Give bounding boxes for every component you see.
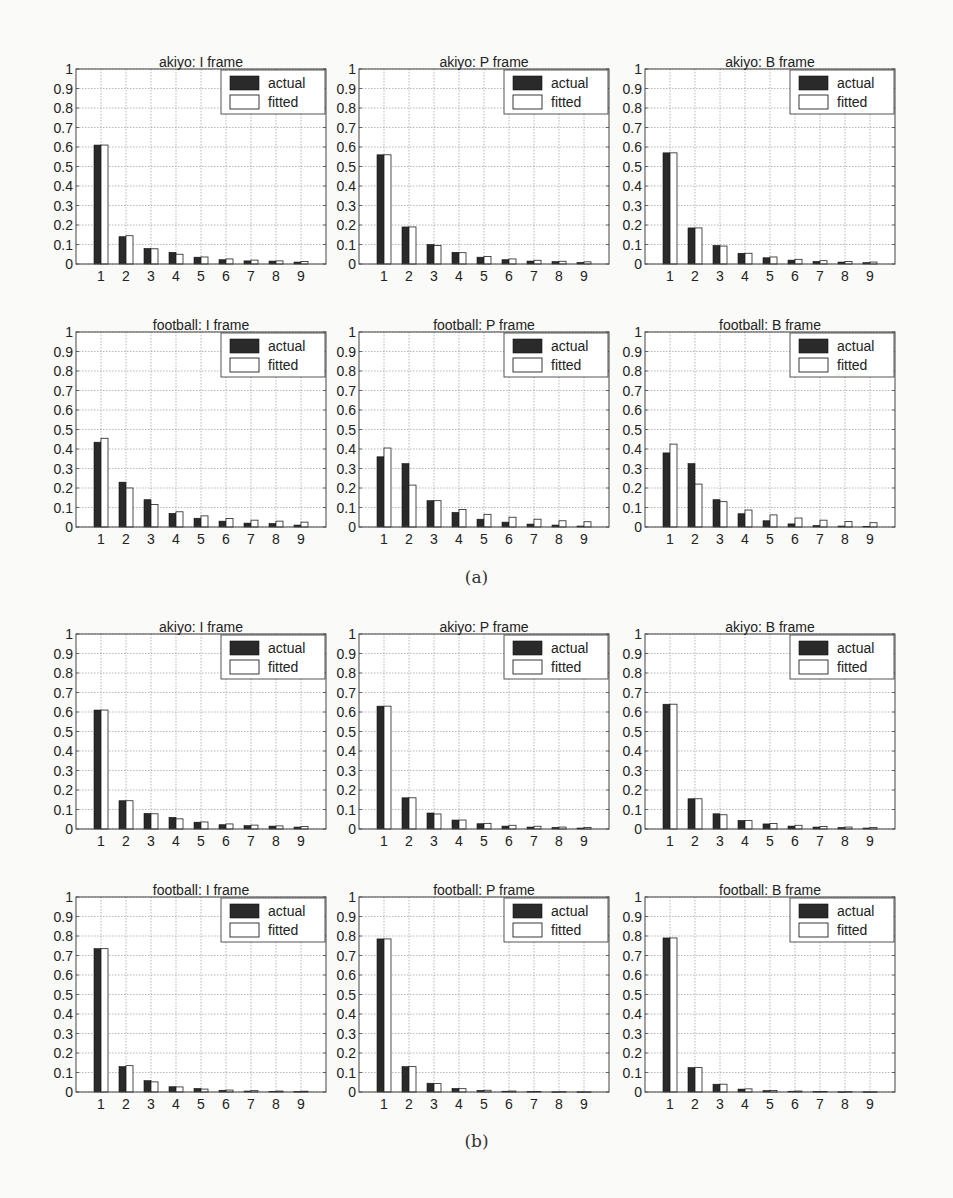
- bar-fitted: [101, 438, 108, 527]
- svg-text:8: 8: [555, 833, 563, 849]
- svg-text:0.6: 0.6: [623, 704, 643, 720]
- svg-text:5: 5: [766, 1096, 774, 1112]
- bar-fitted: [101, 710, 108, 829]
- svg-text:4: 4: [455, 268, 463, 284]
- bar-fitted: [201, 257, 208, 264]
- svg-text:0: 0: [65, 519, 73, 535]
- svg-text:0.1: 0.1: [623, 802, 643, 818]
- legend-swatch-actual: [230, 76, 259, 90]
- svg-text:9: 9: [866, 1096, 874, 1112]
- bar-fitted: [301, 522, 308, 527]
- svg-text:0.9: 0.9: [54, 646, 74, 662]
- svg-text:0.5: 0.5: [623, 159, 643, 175]
- svg-text:5: 5: [197, 1096, 205, 1112]
- svg-text:4: 4: [172, 833, 180, 849]
- svg-text:2: 2: [122, 268, 130, 284]
- svg-text:1: 1: [65, 889, 73, 905]
- legend-label-fitted: fitted: [268, 357, 298, 373]
- legend-label-fitted: fitted: [837, 357, 867, 373]
- legend-swatch-fitted: [513, 923, 542, 937]
- svg-text:7: 7: [530, 268, 538, 284]
- bar-chart: 00.10.20.30.40.50.60.70.80.91123456789fo…: [40, 318, 340, 568]
- chart-akiyo-b-frame-b: 00.10.20.30.40.50.60.70.80.91123456789ak…: [609, 620, 909, 870]
- bar-actual: [94, 949, 101, 1092]
- chart-akiyo-b-frame-a: 00.10.20.30.40.50.60.70.80.91123456789ak…: [609, 55, 909, 305]
- bar-fitted: [795, 825, 802, 829]
- x-axis-labels: 123456789: [380, 531, 588, 547]
- svg-text:0.9: 0.9: [337, 81, 357, 97]
- svg-text:0.6: 0.6: [337, 402, 357, 418]
- svg-text:0.9: 0.9: [623, 909, 643, 925]
- chart-title: football: B frame: [719, 883, 821, 898]
- svg-text:0.5: 0.5: [337, 724, 357, 740]
- svg-text:0.4: 0.4: [623, 1006, 643, 1022]
- legend-swatch-fitted: [799, 923, 828, 937]
- svg-text:8: 8: [272, 268, 280, 284]
- svg-text:0.1: 0.1: [337, 237, 357, 253]
- legend-swatch-actual: [513, 904, 542, 918]
- legend: actualfitted: [504, 635, 608, 679]
- svg-text:0.1: 0.1: [54, 237, 74, 253]
- bar-fitted: [770, 824, 777, 829]
- svg-text:2: 2: [691, 531, 699, 547]
- bar-fitted: [584, 522, 591, 527]
- svg-text:6: 6: [222, 1096, 230, 1112]
- bar-fitted: [695, 228, 702, 264]
- bar-fitted: [434, 1084, 441, 1092]
- svg-text:0.1: 0.1: [337, 500, 357, 516]
- svg-text:0.3: 0.3: [54, 1026, 74, 1042]
- bar-chart: 00.10.20.30.40.50.60.70.80.91123456789fo…: [323, 883, 623, 1133]
- bar-fitted: [151, 249, 158, 264]
- bar-fitted: [384, 706, 391, 829]
- bar-fitted: [126, 236, 133, 264]
- chart-title: akiyo: P frame: [439, 55, 528, 70]
- bar-fitted: [720, 502, 727, 527]
- legend-label-actual: actual: [268, 75, 305, 91]
- svg-text:1: 1: [666, 1096, 674, 1112]
- bar-fitted: [484, 257, 491, 264]
- bar-actual: [402, 227, 409, 264]
- svg-text:0.3: 0.3: [337, 198, 357, 214]
- chart-akiyo-p-frame-b: 00.10.20.30.40.50.60.70.80.91123456789ak…: [323, 620, 623, 870]
- bar-actual: [763, 521, 770, 527]
- svg-text:0.9: 0.9: [54, 81, 74, 97]
- bar-actual: [452, 252, 459, 264]
- svg-text:0.4: 0.4: [337, 441, 357, 457]
- bar-fitted: [409, 1067, 416, 1092]
- bar-actual: [119, 801, 126, 829]
- svg-text:0.2: 0.2: [337, 480, 357, 496]
- svg-text:0.4: 0.4: [337, 1006, 357, 1022]
- legend-label-fitted: fitted: [551, 94, 581, 110]
- svg-text:0: 0: [348, 821, 356, 837]
- svg-text:0.6: 0.6: [54, 967, 74, 983]
- svg-text:0.4: 0.4: [623, 441, 643, 457]
- svg-text:0: 0: [634, 1084, 642, 1100]
- legend-label-actual: actual: [551, 338, 588, 354]
- svg-text:0.5: 0.5: [54, 987, 74, 1003]
- svg-text:1: 1: [634, 61, 642, 77]
- legend-swatch-actual: [799, 76, 828, 90]
- svg-text:8: 8: [272, 531, 280, 547]
- bar-chart: 00.10.20.30.40.50.60.70.80.91123456789ak…: [609, 620, 909, 870]
- bar-fitted: [534, 260, 541, 264]
- bar-actual: [477, 257, 484, 264]
- bar-fitted: [695, 1068, 702, 1092]
- legend-label-fitted: fitted: [268, 659, 298, 675]
- svg-text:8: 8: [841, 268, 849, 284]
- bar-fitted: [870, 523, 877, 527]
- svg-text:5: 5: [766, 268, 774, 284]
- chart-title: akiyo: I frame: [159, 620, 243, 635]
- x-axis-labels: 123456789: [666, 833, 874, 849]
- svg-text:0.9: 0.9: [623, 81, 643, 97]
- svg-text:6: 6: [222, 531, 230, 547]
- bar-actual: [219, 260, 226, 264]
- svg-text:0.9: 0.9: [54, 909, 74, 925]
- svg-text:5: 5: [197, 268, 205, 284]
- bar-fitted: [384, 939, 391, 1092]
- legend-label-fitted: fitted: [837, 94, 867, 110]
- svg-text:0.9: 0.9: [623, 646, 643, 662]
- bar-fitted: [695, 799, 702, 829]
- bar-fitted: [484, 823, 491, 829]
- bar-actual: [144, 248, 151, 264]
- svg-text:9: 9: [866, 268, 874, 284]
